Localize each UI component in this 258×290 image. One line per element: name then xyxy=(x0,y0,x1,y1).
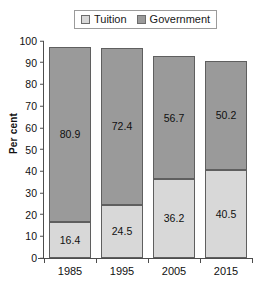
bar-group: 24.572.4 xyxy=(101,41,143,258)
y-axis-tick-mark xyxy=(40,171,44,172)
y-axis-tick-mark xyxy=(40,127,44,128)
y-axis-tick-mark xyxy=(40,236,44,237)
x-axis-tick-mark xyxy=(96,258,97,263)
y-axis-tick-label: 80 xyxy=(13,79,40,90)
y-axis-tick-label: 30 xyxy=(13,188,40,199)
x-axis-tick-mark xyxy=(44,258,45,263)
stacked-bar-chart: Tuition Government Per cent 100908070605… xyxy=(0,0,258,290)
legend-label-government: Government xyxy=(150,14,211,25)
bar-segment-tuition: 16.4 xyxy=(49,222,91,258)
bar-group: 40.550.2 xyxy=(205,41,247,258)
tuition-swatch-icon xyxy=(81,15,90,24)
y-axis-tick-mark xyxy=(40,41,44,42)
y-axis-tick: 0 xyxy=(13,253,44,264)
y-axis-tick: 60 xyxy=(13,123,44,134)
y-axis-tick-mark xyxy=(40,192,44,193)
y-axis-tick-label: 60 xyxy=(13,123,40,134)
y-axis-tick-label: 20 xyxy=(13,209,40,220)
y-axis-tick-label: 10 xyxy=(13,231,40,242)
x-axis-label: 2015 xyxy=(214,266,238,277)
legend-item-government: Government xyxy=(137,14,211,25)
bar-segment-government: 56.7 xyxy=(153,56,195,179)
y-axis-tick: 80 xyxy=(13,79,44,90)
bar-group: 36.256.7 xyxy=(153,41,195,258)
bar-group: 16.480.9 xyxy=(49,41,91,258)
y-axis-tick: 100 xyxy=(13,36,44,47)
x-axis-tick-mark xyxy=(252,258,253,263)
bar-value-label: 50.2 xyxy=(216,110,236,121)
chart-legend: Tuition Government xyxy=(74,10,217,29)
y-axis-tick: 90 xyxy=(13,57,44,68)
y-axis-tick-label: 90 xyxy=(13,57,40,68)
y-axis-tick: 20 xyxy=(13,209,44,220)
y-axis-tick-mark xyxy=(40,106,44,107)
x-axis-label: 1995 xyxy=(110,266,134,277)
y-axis-tick-label: 50 xyxy=(13,144,40,155)
bar-value-label: 16.4 xyxy=(60,235,80,246)
x-axis-tick-mark xyxy=(148,258,149,263)
y-axis-tick: 50 xyxy=(13,144,44,155)
bar-value-label: 56.7 xyxy=(164,113,184,124)
y-axis-tick-label: 40 xyxy=(13,166,40,177)
y-axis-tick-mark xyxy=(40,214,44,215)
bar-segment-government: 80.9 xyxy=(49,47,91,223)
y-axis-tick: 30 xyxy=(13,188,44,199)
y-axis-tick-label: 100 xyxy=(13,36,40,47)
bar-value-label: 72.4 xyxy=(112,121,132,132)
bar-value-label: 40.5 xyxy=(216,209,236,220)
bar-value-label: 24.5 xyxy=(112,226,132,237)
bar-segment-tuition: 24.5 xyxy=(101,205,143,258)
bar-segment-tuition: 36.2 xyxy=(153,179,195,258)
government-swatch-icon xyxy=(137,15,146,24)
x-axis-tick-mark xyxy=(200,258,201,263)
bar-value-label: 36.2 xyxy=(164,213,184,224)
x-axis-label: 1985 xyxy=(58,266,82,277)
bar-value-label: 80.9 xyxy=(60,129,80,140)
bar-segment-government: 50.2 xyxy=(205,61,247,170)
y-axis-tick-label: 0 xyxy=(13,253,40,264)
y-axis-tick-mark xyxy=(40,84,44,85)
y-axis-tick-label: 70 xyxy=(13,101,40,112)
y-axis-tick-mark xyxy=(40,62,44,63)
plot-area: 1009080706050403020100 16.480.924.572.43… xyxy=(44,41,252,258)
bar-segment-tuition: 40.5 xyxy=(205,170,247,258)
y-axis-tick-mark xyxy=(40,149,44,150)
x-axis-label: 2005 xyxy=(162,266,186,277)
legend-item-tuition: Tuition xyxy=(81,14,127,25)
x-axis-line xyxy=(38,258,253,259)
y-axis-tick: 10 xyxy=(13,231,44,242)
legend-label-tuition: Tuition xyxy=(94,14,127,25)
y-axis-tick: 70 xyxy=(13,101,44,112)
y-axis-tick: 40 xyxy=(13,166,44,177)
bar-segment-government: 72.4 xyxy=(101,48,143,205)
